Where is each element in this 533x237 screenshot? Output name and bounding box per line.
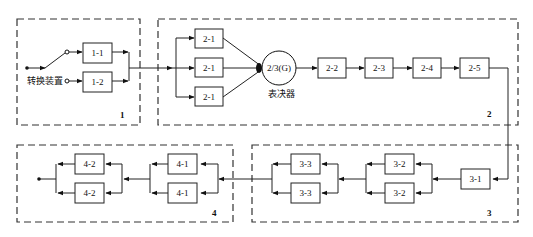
block-1-2-label: 1-2	[92, 77, 104, 87]
group-4-border	[17, 145, 233, 222]
block-4-2-a-label: 4-2	[84, 159, 96, 169]
block-3-3-b-label: 3-3	[300, 188, 312, 198]
group-2-number: 2	[487, 109, 492, 119]
block-4-1-a-label: 4-1	[177, 159, 189, 169]
voter-label: 2/3(G)	[267, 63, 291, 73]
group-3-number: 3	[487, 208, 492, 218]
block-2-1-a-label: 2-1	[203, 34, 215, 44]
reliability-diagram: 1 2 3 4 转换装置 1-1 1-2 2-1 2-1 2-1 2/3(G) …	[0, 0, 533, 237]
block-2-4-label: 2-4	[421, 63, 433, 73]
voter-input-junction	[256, 63, 262, 73]
block-2-1-c-label: 2-1	[203, 92, 215, 102]
block-2-1-b-label: 2-1	[203, 63, 215, 73]
switch-arm	[45, 53, 65, 68]
block-3-2-a-label: 3-2	[394, 159, 406, 169]
group-4-number: 4	[212, 208, 217, 218]
switch-contact-1	[65, 50, 69, 54]
block-2-5-label: 2-5	[469, 63, 481, 73]
group-1-number: 1	[120, 110, 125, 120]
block-2-3-label: 2-3	[373, 63, 385, 73]
block-3-3-a-label: 3-3	[300, 159, 312, 169]
switch-label: 转换装置	[27, 75, 63, 86]
voter-caption: 表决器	[268, 88, 295, 99]
block-2-2-label: 2-2	[326, 63, 338, 73]
block-3-1-label: 3-1	[470, 174, 482, 184]
switch-contact-2	[65, 79, 69, 83]
output-terminal-dot	[37, 177, 41, 181]
block-3-2-b-label: 3-2	[394, 188, 406, 198]
block-4-1-b-label: 4-1	[177, 188, 189, 198]
block-4-2-b-label: 4-2	[84, 188, 96, 198]
block-1-1-label: 1-1	[92, 48, 104, 58]
